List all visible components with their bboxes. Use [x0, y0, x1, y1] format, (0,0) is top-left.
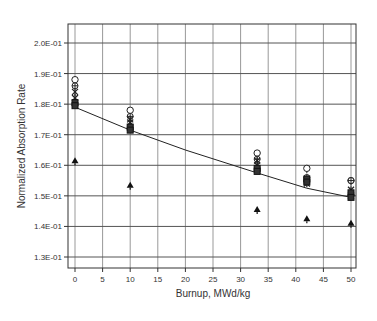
data-point-square: [304, 179, 310, 185]
x-tick-label: 5: [100, 275, 105, 284]
y-tick-label: 1.6E-01: [34, 161, 63, 170]
data-point-square: [72, 103, 78, 109]
x-tick-label: 40: [291, 275, 300, 284]
data-point-circle: [304, 165, 310, 173]
absorption-rate-chart: 1.3E-011.4E-011.5E-011.6E-011.7E-011.8E-…: [0, 0, 377, 321]
x-tick-label: 50: [347, 275, 356, 284]
data-point-triangle: [254, 206, 261, 214]
chart-canvas: 1.3E-011.4E-011.5E-011.6E-011.7E-011.8E-…: [0, 0, 377, 321]
y-tick-label: 2.0E-01: [34, 39, 63, 48]
y-tick-label: 1.8E-01: [34, 100, 63, 109]
grid-lines: [68, 24, 356, 268]
y-tick-label: 1.3E-01: [34, 253, 63, 262]
plot-frame: [68, 24, 356, 268]
x-tick-label: 15: [153, 275, 162, 284]
x-tick-label: 20: [181, 275, 190, 284]
data-point-star: [72, 88, 78, 95]
x-tick-label: 0: [73, 275, 78, 284]
data-point-circle-plus: [72, 83, 78, 89]
y-tick-label: 1.5E-01: [34, 192, 63, 201]
x-tick-label: 25: [209, 275, 218, 284]
x-tick-label: 35: [264, 275, 273, 284]
y-axis-label: Normalized Absorption Rate: [16, 83, 27, 208]
x-tick-label: 10: [126, 275, 135, 284]
data-point-triangle: [127, 182, 134, 190]
data-point-square: [127, 127, 133, 133]
y-tick-label: 1.4E-01: [34, 222, 63, 231]
data-point-triangle: [303, 215, 310, 223]
data-point-square: [348, 194, 354, 200]
data-point-circle-plus: [348, 178, 354, 184]
y-axis-ticks: 1.3E-011.4E-011.5E-011.6E-011.7E-011.8E-…: [34, 39, 68, 262]
x-axis-ticks: 05101520253035404550: [73, 268, 356, 284]
data-point-square: [254, 168, 260, 174]
x-axis-label: Burnup, MWd/kg: [176, 288, 250, 299]
y-tick-label: 1.9E-01: [34, 70, 63, 79]
y-tick-label: 1.7E-01: [34, 131, 63, 140]
data-point-triangle: [72, 157, 79, 165]
x-tick-label: 45: [319, 275, 328, 284]
x-tick-label: 30: [236, 275, 245, 284]
